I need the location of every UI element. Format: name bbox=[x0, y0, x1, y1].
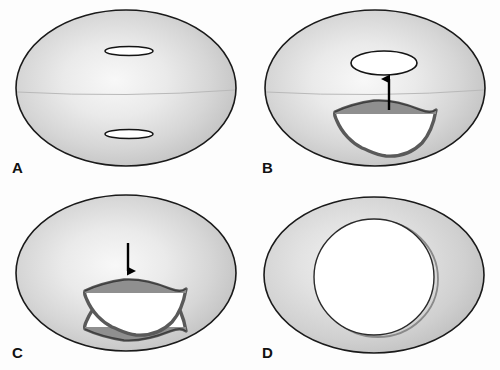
upper-slit bbox=[105, 46, 153, 55]
panel-a-illustration bbox=[0, 0, 250, 185]
figure-container: A bbox=[0, 0, 500, 370]
panel-a: A bbox=[0, 0, 250, 185]
panel-c-illustration bbox=[0, 185, 250, 370]
panel-c: C bbox=[0, 185, 250, 370]
panel-label-d: D bbox=[262, 345, 273, 360]
central-circular-aperture bbox=[314, 219, 434, 335]
panel-b-illustration bbox=[250, 0, 500, 185]
panel-label-c: C bbox=[12, 345, 23, 360]
open-oval-aperture bbox=[351, 51, 417, 75]
panel-label-b: B bbox=[262, 160, 273, 175]
panel-d: D bbox=[250, 185, 500, 370]
panel-d-illustration bbox=[250, 185, 500, 370]
lower-slit bbox=[105, 129, 153, 138]
ellipse-body bbox=[16, 10, 236, 166]
panel-b: B bbox=[250, 0, 500, 185]
panel-label-a: A bbox=[12, 160, 23, 175]
